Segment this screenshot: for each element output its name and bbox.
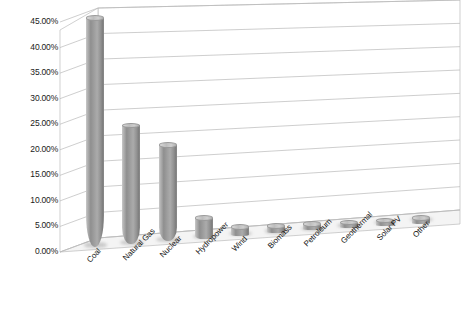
chart-container: 0.00%5.00%10.00%15.00%20.00%25.00%30.00%… (0, 0, 465, 317)
x-axis: CoalNatural GasNuclearHydropowerWindBiom… (0, 0, 465, 317)
x-axis-tick-label: Other (411, 219, 431, 239)
x-axis-tick-label: Natural Gas (121, 226, 157, 262)
x-axis-tick-label: Solar PV (375, 214, 403, 242)
x-axis-tick-label: Geothermal (339, 210, 374, 245)
x-axis-tick-label: Nuclear (158, 234, 183, 259)
x-axis-tick-label: Hydropower (194, 220, 230, 256)
x-axis-tick-label: Coal (85, 247, 103, 265)
x-axis-tick-label: Petroleum (302, 216, 334, 248)
x-axis-tick-label: Wind (230, 234, 249, 253)
x-axis-tick-label: Biomass (266, 223, 294, 251)
